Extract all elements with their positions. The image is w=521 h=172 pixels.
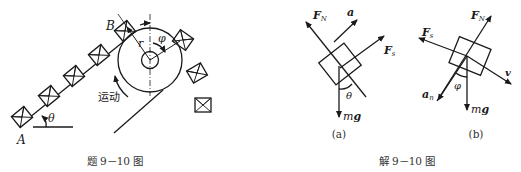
top-angle-arc	[140, 23, 150, 25]
fn-label-b: FN	[470, 9, 486, 23]
an-label-b: an	[422, 88, 434, 102]
free-body-diagram-a: FN a Fs θ mg (a)	[306, 6, 396, 140]
theta-label: θ	[48, 112, 55, 125]
friction-force-arrow	[419, 38, 467, 56]
mg-label-b: mg	[471, 103, 489, 116]
point-B-label: B	[105, 19, 115, 33]
theta-arc	[42, 116, 46, 127]
panel-a-label: (a)	[332, 128, 346, 140]
right-caption: 解 9－10 图	[379, 155, 436, 167]
phi-label-b: φ	[454, 80, 461, 91]
free-body-diagram-b: FN Fs v an φ mg (b)	[419, 9, 511, 140]
phi-label: φ	[158, 32, 166, 45]
package-icon	[11, 107, 32, 128]
theta-label-a: θ	[346, 90, 352, 101]
point-A-label: A	[16, 133, 26, 147]
fn-label-a: FN	[312, 9, 328, 23]
acceleration-arrow	[334, 20, 357, 42]
package-icon	[38, 86, 59, 107]
motion-label: 运动	[98, 91, 120, 104]
mg-label-a: mg	[343, 110, 361, 123]
normal-accel-arrow	[438, 56, 467, 100]
v-label-b: v	[505, 67, 511, 78]
package-icon	[88, 45, 109, 66]
package-icon	[63, 66, 84, 87]
fs-label-a: Fs	[383, 44, 396, 58]
block-b	[449, 37, 491, 76]
fs-label-b: Fs	[421, 26, 434, 40]
return-belt	[114, 90, 163, 133]
conveyor-diagram: B A θ r φ 运动 题 9－10 图	[11, 14, 211, 167]
radius-label: r	[138, 37, 144, 50]
left-caption: 题 9－10 图	[87, 155, 144, 167]
panel-b-label: (b)	[469, 128, 484, 140]
package-icon	[187, 63, 208, 83]
physics-figure: B A θ r φ 运动 题 9－10 图 FN a Fs θ mg (a)	[0, 0, 521, 172]
friction-force-arrow	[340, 36, 384, 68]
phi-arc-b	[456, 73, 467, 77]
package-icon	[195, 98, 211, 112]
theta-arc-a	[339, 84, 352, 89]
a-label-a: a	[347, 6, 354, 19]
